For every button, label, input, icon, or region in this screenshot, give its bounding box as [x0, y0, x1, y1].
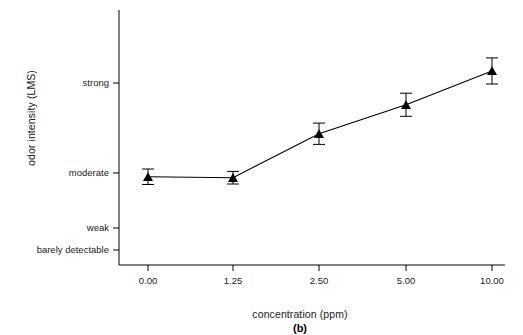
data-markers: [143, 66, 497, 182]
chart-figure: barely detectable weak moderate strong 0…: [0, 0, 523, 335]
data-point-marker: [314, 129, 324, 138]
data-line: [148, 71, 492, 178]
x-tick-label: 1.25: [224, 275, 243, 286]
y-tick-label: moderate: [69, 167, 109, 178]
odor-intensity-line-chart: barely detectable weak moderate strong 0…: [0, 0, 523, 335]
panel-label: (b): [180, 322, 420, 334]
y-tick-label: strong: [83, 77, 109, 88]
x-tick-label: 2.50: [310, 275, 329, 286]
x-axis-title: concentration (ppm): [160, 308, 440, 320]
y-axis-title: odor intensity (LMS): [25, 43, 37, 193]
error-bars: [142, 58, 498, 185]
data-point-marker: [487, 66, 497, 75]
x-tick-label: 5.00: [397, 275, 416, 286]
x-axis-ticks: 0.00 1.25 2.50 5.00 10.00: [139, 265, 504, 286]
y-tick-label: weak: [86, 222, 109, 233]
y-axis-ticks: barely detectable weak moderate strong: [37, 77, 119, 255]
x-tick-label: 0.00: [139, 275, 158, 286]
x-tick-label: 10.00: [480, 275, 504, 286]
y-tick-label: barely detectable: [37, 244, 109, 255]
data-point-marker: [401, 100, 411, 109]
